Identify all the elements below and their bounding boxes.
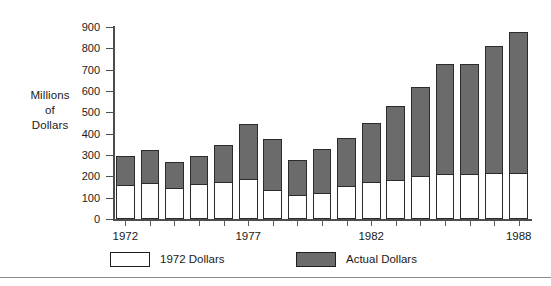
y-axis-tick-label: 500 — [0, 107, 100, 118]
bar-segment-1972-dollars — [289, 195, 306, 218]
bar-segment-1972-dollars — [314, 193, 331, 218]
bar-1973 — [141, 150, 160, 219]
x-axis-tick — [297, 220, 298, 226]
y-axis-tick-label: 200 — [0, 171, 100, 182]
x-axis-tick-label: 1988 — [499, 230, 539, 243]
bar-segment-1972-dollars — [117, 185, 134, 218]
bar-segment-1972-dollars — [437, 174, 454, 218]
legend-item-1972-dollars: 1972 Dollars — [110, 250, 225, 268]
x-axis-tick — [322, 220, 323, 226]
footer-divider — [0, 277, 551, 278]
bar-segment-1972-dollars — [486, 173, 503, 218]
legend-label-actual-dollars: Actual Dollars — [346, 253, 417, 266]
bar-segment-1972-dollars — [387, 180, 404, 218]
bar-segment-1972-dollars — [191, 184, 208, 218]
x-axis-tick-label: 1972 — [105, 230, 145, 243]
x-axis-tick — [174, 220, 175, 226]
bar-segment-1972-dollars — [264, 190, 281, 218]
x-axis-tick-label: 1977 — [228, 230, 268, 243]
bar-1988 — [509, 32, 528, 219]
plot-area — [113, 27, 531, 219]
x-axis-tick — [519, 220, 520, 226]
y-axis-tick-label: 0 — [0, 214, 100, 225]
bar-1976 — [214, 145, 233, 219]
y-axis-tick-label: 600 — [0, 86, 100, 97]
x-axis-tick — [150, 220, 151, 226]
legend-swatch-1972-dollars — [110, 252, 150, 267]
y-axis-tick-label: 900 — [0, 22, 100, 33]
bar-1987 — [485, 46, 504, 219]
x-axis-tick — [396, 220, 397, 226]
bar-1972 — [116, 156, 135, 219]
bar-1984 — [411, 87, 430, 219]
legend-swatch-actual-dollars — [296, 252, 336, 267]
x-axis-tick — [224, 220, 225, 226]
bar-segment-1972-dollars — [215, 182, 232, 218]
x-axis-tick — [420, 220, 421, 226]
bar-segment-1972-dollars — [461, 174, 478, 218]
y-axis-tick-label: 300 — [0, 150, 100, 161]
bar-1983 — [386, 106, 405, 219]
bar-1985 — [436, 64, 455, 219]
x-axis-tick — [494, 220, 495, 226]
y-axis-tick-label: 800 — [0, 43, 100, 54]
x-axis-tick — [470, 220, 471, 226]
bar-1986 — [460, 64, 479, 219]
bar-1979 — [288, 160, 307, 219]
x-axis-tick — [445, 220, 446, 226]
bar-segment-1972-dollars — [142, 183, 159, 218]
bar-1982 — [362, 123, 381, 219]
bar-1975 — [190, 156, 209, 219]
y-axis-tick — [106, 219, 114, 220]
bar-1974 — [165, 162, 184, 219]
bar-1978 — [263, 139, 282, 219]
x-axis-tick — [371, 220, 372, 226]
x-axis-tick — [199, 220, 200, 226]
legend-label-1972-dollars: 1972 Dollars — [160, 253, 225, 266]
bar-segment-1972-dollars — [166, 188, 183, 218]
bar-1980 — [313, 149, 332, 219]
x-axis-tick — [347, 220, 348, 226]
y-axis-tick-label: 100 — [0, 193, 100, 204]
x-axis-tick — [273, 220, 274, 226]
y-axis-tick-label: 400 — [0, 129, 100, 140]
bar-segment-1972-dollars — [363, 182, 380, 218]
x-axis-tick — [125, 220, 126, 226]
bar-1981 — [337, 138, 356, 219]
bar-chart: Millions of Dollars 01002003004005006007… — [0, 0, 551, 286]
legend-item-actual-dollars: Actual Dollars — [296, 250, 417, 268]
bar-segment-1972-dollars — [240, 179, 257, 218]
bar-1977 — [239, 124, 258, 219]
x-axis-tick — [248, 220, 249, 226]
bar-segment-1972-dollars — [412, 176, 429, 218]
bar-segment-1972-dollars — [510, 173, 527, 218]
bar-segment-1972-dollars — [338, 186, 355, 218]
y-axis-tick-label: 700 — [0, 65, 100, 76]
x-axis-tick-label: 1982 — [351, 230, 391, 243]
